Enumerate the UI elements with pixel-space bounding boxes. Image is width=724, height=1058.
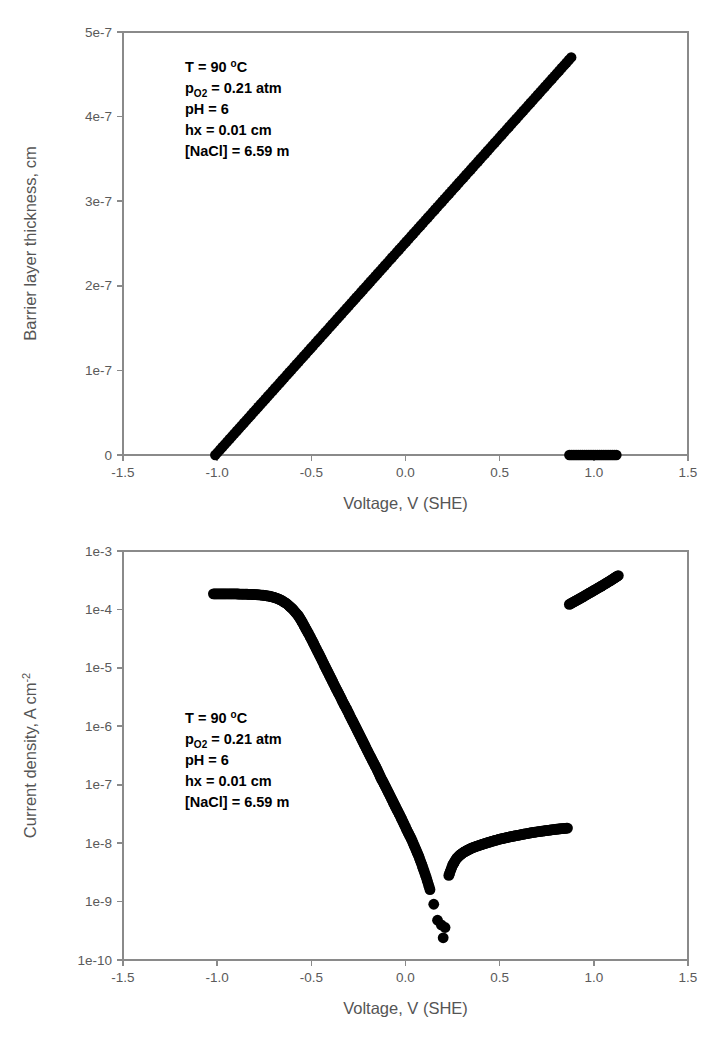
y-axis-tick-label: 1e-10 xyxy=(77,953,112,968)
x-axis-title: Voltage, V (SHE) xyxy=(343,494,468,512)
data-point xyxy=(562,823,573,834)
x-axis-tick-label: 0.5 xyxy=(490,465,509,480)
x-axis-tick-label: -1.5 xyxy=(111,970,134,985)
data-point xyxy=(611,450,621,460)
y-axis-tick-label: 1e-7 xyxy=(85,363,112,378)
y-axis-tick-label: 1e-9 xyxy=(85,894,112,909)
data-point xyxy=(613,570,624,581)
annotation-hx: hx = 0.01 cm xyxy=(185,122,272,138)
y-axis-tick-label: 0 xyxy=(104,448,112,463)
data-point xyxy=(438,932,449,943)
x-axis-tick-label: -1.0 xyxy=(206,970,229,985)
x-axis-tick-label: 0.5 xyxy=(490,970,509,985)
chart-panel-barrier-layer-thickness: 01e-72e-73e-74e-75e-7-1.5-1.0-0.50.00.51… xyxy=(0,0,724,530)
annotation-temperature: T = 90 oC xyxy=(185,58,248,75)
annotation-oxygen-pressure: pO2 = 0.21 atm xyxy=(185,80,282,99)
x-axis-tick-label: -0.5 xyxy=(300,970,323,985)
chart-panel-current-density: 1e-101e-91e-81e-71e-61e-51e-41e-3-1.5-1.… xyxy=(0,528,724,1058)
data-point xyxy=(428,899,439,910)
figure-root: 01e-72e-73e-74e-75e-7-1.5-1.0-0.50.00.51… xyxy=(0,0,724,1058)
x-axis-title: Voltage, V (SHE) xyxy=(343,999,468,1017)
y-axis-title: Barrier layer thickness, cm xyxy=(21,146,39,340)
conditions-annotation: T = 90 oCpO2 = 0.21 atmpH = 6hx = 0.01 c… xyxy=(185,709,289,810)
x-axis-tick-label: -0.5 xyxy=(300,465,323,480)
y-axis-title: Current density, A cm-2 xyxy=(20,673,39,838)
data-point xyxy=(425,884,436,895)
data-point xyxy=(440,922,451,933)
x-axis-tick-label: 1.5 xyxy=(679,970,698,985)
annotation-nacl: [NaCl] = 6.59 m xyxy=(185,143,289,159)
y-axis-tick-label: 1e-4 xyxy=(85,602,113,617)
data-series-group xyxy=(210,52,622,460)
annotation-nacl: [NaCl] = 6.59 m xyxy=(185,794,289,810)
conditions-annotation: T = 90 oCpO2 = 0.21 atmpH = 6hx = 0.01 c… xyxy=(185,58,289,159)
y-axis-tick-label: 1e-3 xyxy=(85,544,112,559)
x-axis-tick-label: 1.5 xyxy=(679,465,698,480)
y-axis-tick-label: 1e-5 xyxy=(85,660,112,675)
annotation-ph: pH = 6 xyxy=(185,752,229,768)
y-axis-tick-label: 4e-7 xyxy=(85,109,112,124)
barrier-layer-thickness-plot: 01e-72e-73e-74e-75e-7-1.5-1.0-0.50.00.51… xyxy=(0,0,724,530)
y-axis-tick-label: 1e-8 xyxy=(85,836,112,851)
x-axis-tick-label: -1.0 xyxy=(206,465,229,480)
x-axis-tick-label: 0.0 xyxy=(396,465,415,480)
current-density-plot: 1e-101e-91e-81e-71e-61e-51e-41e-3-1.5-1.… xyxy=(0,528,724,1058)
y-axis-tick-label: 1e-6 xyxy=(85,719,112,734)
annotation-hx: hx = 0.01 cm xyxy=(185,773,272,789)
svg-text:Current density, A cm-2: Current density, A cm-2 xyxy=(20,673,39,838)
x-axis-tick-label: -1.5 xyxy=(111,465,134,480)
annotation-ph: pH = 6 xyxy=(185,101,229,117)
x-axis-tick-label: 1.0 xyxy=(584,465,603,480)
y-axis-tick-label: 1e-7 xyxy=(85,777,112,792)
x-axis-tick-label: 1.0 xyxy=(584,970,603,985)
y-axis-tick-label: 5e-7 xyxy=(85,25,112,40)
x-axis-tick-label: 0.0 xyxy=(396,970,415,985)
data-series-group xyxy=(208,570,624,943)
annotation-oxygen-pressure: pO2 = 0.21 atm xyxy=(185,731,282,750)
y-axis-tick-label: 3e-7 xyxy=(85,194,112,209)
y-axis-tick-label: 2e-7 xyxy=(85,278,112,293)
data-point xyxy=(566,52,576,62)
annotation-temperature: T = 90 oC xyxy=(185,709,248,726)
